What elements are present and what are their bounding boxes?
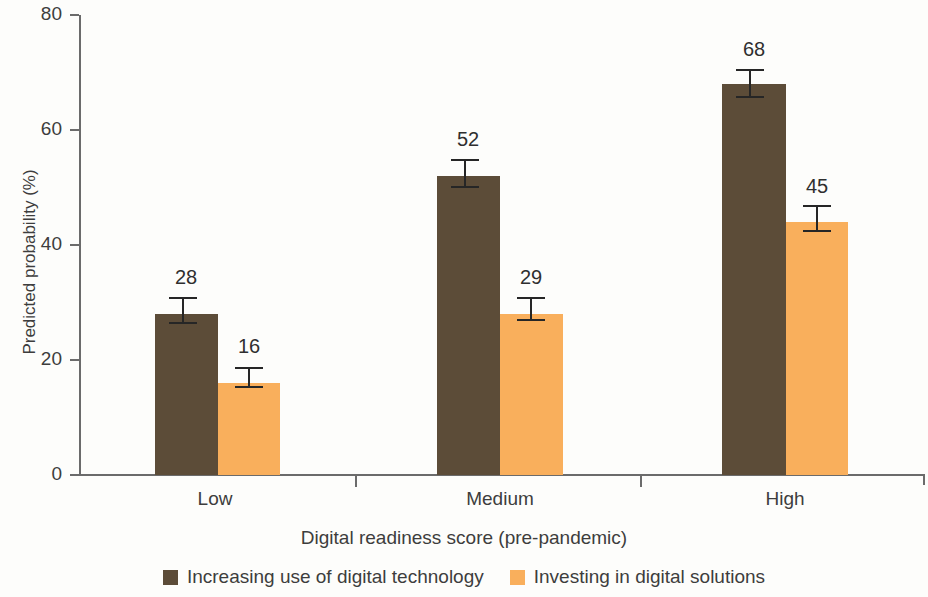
y-axis-title: Predicted probability (%) bbox=[20, 112, 40, 412]
error-bar-cap-top bbox=[736, 69, 764, 71]
x-axis-tick-1 bbox=[355, 476, 357, 487]
y-axis-tick-80 bbox=[70, 14, 79, 16]
error-bar-stem bbox=[182, 297, 184, 324]
error-bar-cap-top bbox=[803, 205, 831, 207]
x-axis-tick-2 bbox=[640, 476, 642, 487]
y-axis-tick-20 bbox=[70, 359, 79, 361]
x-axis-group-label-low: Low bbox=[150, 488, 280, 510]
error-bar-stem bbox=[530, 297, 532, 321]
value-label-low-increasing-use: 28 bbox=[141, 266, 231, 289]
bar-medium-investing bbox=[500, 314, 563, 475]
error-bar-high-increasing-use bbox=[736, 69, 764, 98]
error-bar-cap-bottom bbox=[803, 230, 831, 232]
legend-item-investing[interactable]: Investing in digital solutions bbox=[510, 566, 765, 588]
error-bar-medium-investing bbox=[517, 297, 545, 321]
x-axis-group-label-medium: Medium bbox=[435, 488, 565, 510]
error-bar-stem bbox=[816, 205, 818, 232]
value-label-medium-increasing-use: 52 bbox=[423, 128, 513, 151]
y-axis-label-80: 80 bbox=[0, 3, 62, 25]
bar-high-increasing-use bbox=[722, 84, 786, 475]
error-bar-cap-bottom bbox=[235, 386, 263, 388]
value-label-high-increasing-use: 68 bbox=[709, 38, 799, 61]
y-axis-label-0: 0 bbox=[0, 463, 62, 485]
y-axis-tick-0 bbox=[70, 474, 79, 476]
legend-label-increasing-use: Increasing use of digital technology bbox=[187, 566, 484, 588]
legend-swatch-dark-icon bbox=[163, 570, 178, 585]
legend-swatch-orange-icon bbox=[510, 570, 525, 585]
error-bar-cap-top bbox=[169, 297, 197, 299]
plot-area: 28 16 52 29 68 45 bbox=[79, 15, 925, 475]
y-axis-tick-40 bbox=[70, 244, 79, 246]
error-bar-cap-bottom bbox=[736, 96, 764, 98]
error-bar-cap-top bbox=[451, 159, 479, 161]
error-bar-stem bbox=[248, 367, 250, 388]
value-label-medium-investing: 29 bbox=[486, 266, 576, 289]
error-bar-cap-bottom bbox=[169, 322, 197, 324]
error-bar-cap-bottom bbox=[451, 186, 479, 188]
error-bar-cap-top bbox=[517, 297, 545, 299]
error-bar-high-investing bbox=[803, 205, 831, 232]
bar-chart: 80 60 40 20 0 Predicted probability (%) … bbox=[0, 0, 928, 597]
error-bar-medium-increasing-use bbox=[451, 159, 479, 188]
value-label-high-investing: 45 bbox=[772, 175, 862, 198]
error-bar-cap-bottom bbox=[517, 319, 545, 321]
value-label-low-investing: 16 bbox=[204, 335, 294, 358]
legend-item-increasing-use[interactable]: Increasing use of digital technology bbox=[163, 566, 484, 588]
error-bar-cap-top bbox=[235, 367, 263, 369]
legend: Increasing use of digital technology Inv… bbox=[0, 566, 928, 588]
y-axis-tick-60 bbox=[70, 129, 79, 131]
bar-low-investing bbox=[218, 383, 280, 475]
error-bar-low-investing bbox=[235, 367, 263, 388]
error-bar-stem bbox=[749, 69, 751, 98]
legend-label-investing: Investing in digital solutions bbox=[534, 566, 765, 588]
x-axis-end-tick bbox=[923, 476, 925, 485]
bar-high-investing bbox=[786, 222, 848, 475]
x-axis-group-label-high: High bbox=[720, 488, 850, 510]
error-bar-stem bbox=[464, 159, 466, 188]
x-axis-title: Digital readiness score (pre-pandemic) bbox=[0, 527, 928, 549]
bar-medium-increasing-use bbox=[437, 176, 500, 475]
error-bar-low-increasing-use bbox=[169, 297, 197, 324]
